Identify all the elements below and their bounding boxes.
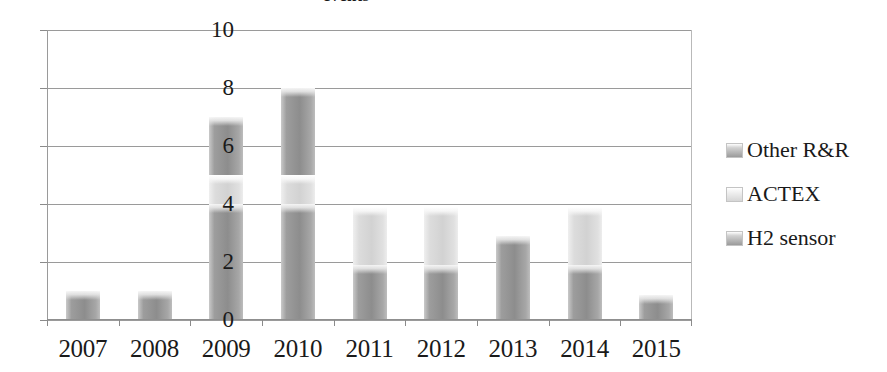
x-axis-tick-label: 2010 <box>262 332 334 366</box>
y-axis-tick-label: 0 <box>194 308 234 331</box>
bar-segment[interactable] <box>568 207 602 265</box>
bar-segment[interactable] <box>353 265 387 320</box>
bar-category <box>620 30 692 320</box>
bar-category <box>405 30 477 320</box>
bar-segment[interactable] <box>66 291 100 320</box>
y-axis-tick-label: 4 <box>194 192 234 215</box>
bar-category <box>549 30 621 320</box>
x-axis-tick <box>405 320 406 326</box>
x-axis-tick <box>47 320 48 326</box>
legend-item[interactable]: H2 sensor <box>726 216 886 260</box>
legend-item-label: H2 sensor <box>747 227 836 249</box>
x-axis-tick-label: 2009 <box>190 332 262 366</box>
x-axis-tick-label: 2008 <box>119 332 191 366</box>
legend-swatch-icon <box>726 231 743 246</box>
y-axis-tick-label: 10 <box>194 18 234 41</box>
plot-area <box>47 30 692 320</box>
legend-swatch-icon <box>726 187 743 202</box>
stacked-bar-chart: events 0246810 2007200820092010201120122… <box>0 0 887 372</box>
x-axis-tick-label: 2012 <box>405 332 477 366</box>
bar-category <box>190 30 262 320</box>
bar-segment[interactable] <box>138 291 172 320</box>
bar-segment[interactable] <box>281 175 315 204</box>
y-axis-tick-label: 6 <box>194 134 234 157</box>
y-axis-tick <box>40 204 47 205</box>
stacked-bar[interactable] <box>353 207 387 320</box>
bar-category <box>334 30 406 320</box>
legend: Other R&RACTEXH2 sensor <box>726 128 886 260</box>
bar-category <box>262 30 334 320</box>
x-axis-tick <box>262 320 263 326</box>
bar-category <box>477 30 549 320</box>
stacked-bar[interactable] <box>496 236 530 320</box>
bar-segment[interactable] <box>424 265 458 320</box>
stacked-bar[interactable] <box>424 207 458 320</box>
y-axis-tick-label: 2 <box>194 250 234 273</box>
x-axis-tick <box>549 320 550 326</box>
y-axis-tick <box>40 320 47 321</box>
y-axis-tick <box>40 30 47 31</box>
x-axis-tick-label: 2011 <box>334 332 406 366</box>
legend-item[interactable]: Other R&R <box>726 128 886 172</box>
y-axis-tick <box>40 146 47 147</box>
y-axis-tick <box>40 262 47 263</box>
x-axis-tick-label: 2015 <box>620 332 692 366</box>
y-axis-tick-label: 8 <box>194 76 234 99</box>
x-axis-tick <box>691 320 692 326</box>
x-axis-tick <box>190 320 191 326</box>
stacked-bar[interactable] <box>138 291 172 320</box>
bar-segment[interactable] <box>281 88 315 175</box>
stacked-bar[interactable] <box>568 207 602 320</box>
bar-segment[interactable] <box>424 207 458 265</box>
bar-category <box>119 30 191 320</box>
bar-category <box>47 30 119 320</box>
bar-group <box>47 30 692 320</box>
x-axis-tick-label: 2014 <box>549 332 621 366</box>
x-axis-tick-label: 2007 <box>47 332 119 366</box>
stacked-bar[interactable] <box>281 88 315 320</box>
x-axis-tick <box>477 320 478 326</box>
legend-item-label: ACTEX <box>747 183 820 205</box>
bar-segment[interactable] <box>353 207 387 265</box>
page-title: events <box>0 0 692 6</box>
bar-segment[interactable] <box>639 295 673 320</box>
x-axis-line <box>47 319 692 320</box>
x-axis-tick <box>119 320 120 326</box>
bar-segment[interactable] <box>281 204 315 320</box>
legend-swatch-icon <box>726 143 743 158</box>
stacked-bar[interactable] <box>639 295 673 320</box>
x-axis-tick <box>620 320 621 326</box>
x-axis-tick-label: 2013 <box>477 332 549 366</box>
x-axis-tick <box>334 320 335 326</box>
gridline <box>47 320 692 321</box>
x-axis-labels: 200720082009201020112012201320142015 <box>47 332 692 366</box>
stacked-bar[interactable] <box>66 291 100 320</box>
bar-segment[interactable] <box>496 236 530 320</box>
bar-segment[interactable] <box>568 265 602 320</box>
legend-item[interactable]: ACTEX <box>726 172 886 216</box>
y-axis-tick <box>40 88 47 89</box>
legend-item-label: Other R&R <box>747 139 849 161</box>
